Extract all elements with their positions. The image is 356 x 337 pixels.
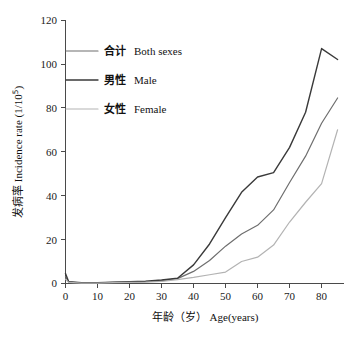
x-tick-label: 60 (252, 290, 264, 302)
x-tick-label: 30 (156, 290, 168, 302)
y-axis-tick-labels: 0 20 40 60 80 100 120 (41, 14, 58, 289)
legend-item-female[interactable]: 女性 Female (66, 102, 166, 116)
x-tick-label: 40 (188, 290, 200, 302)
legend-label-en: Female (134, 103, 166, 115)
y-axis-title-text: 发病率Incidence rate (1/105) (11, 85, 25, 218)
y-tick-label: 40 (46, 190, 58, 202)
x-axis-ticks (66, 284, 322, 289)
y-tick-label: 80 (46, 102, 58, 114)
legend-label-en: Male (134, 74, 157, 86)
legend-label-en: Both sexes (134, 45, 182, 57)
legend-item-male[interactable]: 男性 Male (66, 73, 157, 87)
x-tick-label: 0 (63, 290, 69, 302)
x-axis-tick-labels: 0 10 20 30 40 50 60 70 80 (63, 290, 328, 302)
x-tick-label: 70 (284, 290, 296, 302)
y-axis-title-en: Incidence rate (1/10 (12, 94, 25, 182)
legend-label-cjk: 女性 (104, 102, 126, 116)
x-axis-title-cjk: 年龄（岁） (152, 310, 207, 324)
y-axis-ticks (61, 20, 66, 284)
y-tick-label: 0 (52, 277, 58, 289)
chart-legend: 合计 Both sexes 男性 Male 女性 Female (66, 44, 182, 116)
y-axis-title-close: ) (12, 85, 25, 89)
x-axis-title-text: 年龄（岁）Age(years) (152, 310, 259, 324)
y-tick-label: 100 (41, 58, 58, 70)
series-line (66, 130, 338, 283)
legend-item-both-sexes[interactable]: 合计 Both sexes (66, 44, 182, 58)
y-tick-label: 120 (41, 14, 58, 26)
x-tick-label: 50 (220, 290, 232, 302)
y-axis-title: 发病率Incidence rate (1/105) (11, 85, 25, 218)
x-axis-title: 年龄（岁）Age(years) (152, 310, 259, 324)
x-axis-title-en: Age(years) (210, 311, 259, 324)
y-tick-label: 60 (46, 146, 58, 158)
x-tick-label: 20 (124, 290, 136, 302)
y-tick-label: 20 (46, 234, 58, 246)
x-tick-label: 10 (92, 290, 104, 302)
legend-label-cjk: 男性 (104, 73, 126, 87)
legend-label-cjk: 合计 (104, 44, 126, 58)
x-tick-label: 80 (316, 290, 328, 302)
chart-figure: 0 20 40 60 80 100 120 0 10 20 30 40 50 (0, 0, 356, 337)
incidence-rate-line-chart: 0 20 40 60 80 100 120 0 10 20 30 40 50 (0, 0, 356, 337)
y-axis-title-cjk: 发病率 (11, 185, 25, 218)
